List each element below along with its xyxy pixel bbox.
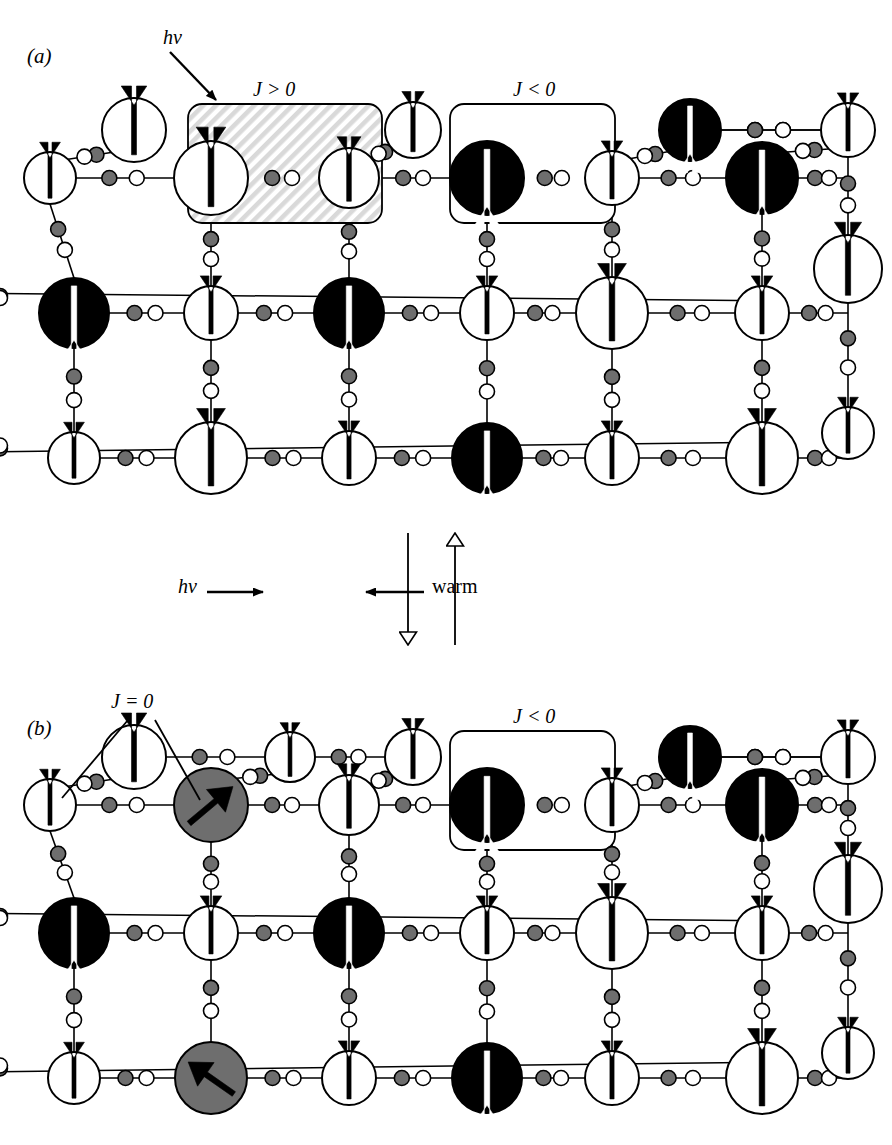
lattice-diagram (0, 0, 892, 1145)
bridging-ligand-circle (755, 360, 770, 375)
bridging-ligand-circle (243, 769, 258, 784)
bridging-ligand-circle (67, 369, 82, 384)
spin-node[interactable] (102, 713, 166, 789)
bridging-ligand-circle (342, 1012, 357, 1027)
spin-node[interactable] (726, 409, 798, 495)
spin-node[interactable] (265, 723, 315, 782)
spin-node[interactable] (814, 222, 882, 303)
j-positive-label: J > 0 (253, 78, 295, 101)
spin-node[interactable] (822, 1017, 874, 1079)
spin-node[interactable] (814, 842, 882, 923)
spin-node[interactable] (319, 764, 379, 835)
spin-node[interactable] (726, 142, 798, 228)
bridging-ligand-circle (605, 242, 620, 257)
bridging-ligand-circle (139, 451, 154, 466)
bridging-ligands-layer (0, 123, 856, 1086)
spin-node[interactable] (821, 720, 875, 784)
spin-node[interactable] (48, 422, 100, 484)
spin-node[interactable] (460, 276, 514, 340)
hv-arrow (170, 52, 216, 100)
bridging-ligand-circle (394, 1071, 409, 1086)
spin-node[interactable] (24, 769, 76, 831)
bridging-ligand-circle (394, 451, 409, 466)
bridging-ligand-circle (204, 383, 219, 398)
bridging-ligand-circle (841, 360, 856, 375)
bridging-ligand-circle (605, 222, 620, 237)
bridging-ligand-circle (204, 252, 219, 267)
spin-nodes-layer (24, 86, 882, 1126)
bridging-ligand-circle (545, 926, 560, 941)
bridging-ligand-circle (661, 1071, 676, 1086)
spin-node[interactable] (659, 726, 721, 800)
bridging-ligand-circle (67, 393, 82, 408)
bridging-ligand-circle (342, 244, 357, 259)
spin-node[interactable] (102, 86, 166, 162)
bridging-ligand-circle (536, 1071, 551, 1086)
bridging-ligand-circle (331, 750, 346, 765)
spin-node[interactable] (24, 142, 76, 204)
spin-node[interactable] (39, 278, 109, 361)
bridging-ligand-circle (670, 926, 685, 941)
bridging-ligand-circle (402, 306, 417, 321)
bridging-ligand-circle (278, 306, 293, 321)
bridging-ligand-circle (480, 874, 495, 889)
j-negative-label-b: J < 0 (513, 705, 555, 728)
spin-node[interactable] (460, 896, 514, 960)
spin-node[interactable] (726, 769, 798, 855)
bridging-ligand-circle (51, 846, 66, 861)
bridging-ligand-circle (139, 1071, 154, 1086)
bridging-ligand-circle (670, 306, 685, 321)
spin-node[interactable] (175, 1042, 247, 1114)
bridging-ligand-circle (0, 1058, 8, 1073)
bridging-ligand-circle (204, 232, 219, 247)
spin-node[interactable] (184, 896, 238, 960)
spin-node[interactable] (822, 397, 874, 459)
spin-node[interactable] (821, 93, 875, 157)
spin-node[interactable] (726, 1029, 798, 1115)
spin-node[interactable] (576, 264, 648, 350)
spin-node[interactable] (735, 896, 789, 960)
spin-node[interactable] (175, 409, 247, 495)
panel-b-tag: (b) (27, 716, 52, 741)
perspective-bond (0, 913, 784, 920)
spin-node[interactable] (314, 898, 384, 981)
bridging-ligand-circle (396, 171, 411, 186)
bridging-ligand-circle (776, 750, 791, 765)
spin-node[interactable] (452, 423, 522, 506)
spin-node[interactable] (39, 898, 109, 981)
bridging-ligand-circle (841, 198, 856, 213)
spin-node[interactable] (48, 1042, 100, 1104)
spin-node[interactable] (735, 276, 789, 340)
bridging-ligand-circle (286, 1071, 301, 1086)
bridging-ligand-circle (127, 926, 142, 941)
bridging-ligand-circle (67, 1013, 82, 1028)
bridging-ligand-circle (802, 926, 817, 941)
spin-node[interactable] (184, 276, 238, 340)
spin-node[interactable] (576, 884, 648, 970)
bridging-ligand-circle (554, 171, 569, 186)
spin-node[interactable] (585, 421, 639, 485)
spin-node[interactable] (659, 99, 721, 173)
spin-node[interactable] (385, 719, 441, 786)
bridging-ligand-circle (841, 951, 856, 966)
bridging-ligand-circle (694, 926, 709, 941)
bridging-ligand-circle (755, 251, 770, 266)
bridging-ligand-circle (57, 242, 72, 257)
spin-node[interactable] (174, 768, 248, 842)
bridging-ligand-circle (795, 770, 810, 785)
bridging-ligand-circle (776, 123, 791, 138)
spin-node[interactable] (314, 278, 384, 361)
bridging-ligand-circle (51, 222, 66, 237)
spin-node[interactable] (322, 421, 376, 485)
bridging-ligand-circle (342, 224, 357, 239)
bridging-ligand-circle (102, 171, 117, 186)
bridging-ligand-circle (605, 369, 620, 384)
bridging-ligand-circle (818, 306, 833, 321)
bridging-ligand-circle (818, 926, 833, 941)
spin-node[interactable] (452, 1043, 522, 1126)
spin-node[interactable] (322, 1041, 376, 1105)
bridging-ligand-circle (265, 171, 280, 186)
spin-node[interactable] (385, 92, 441, 159)
spin-node[interactable] (585, 1041, 639, 1105)
bridging-ligand-circle (285, 171, 300, 186)
